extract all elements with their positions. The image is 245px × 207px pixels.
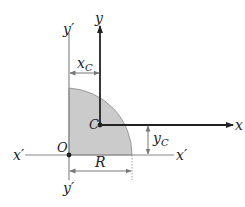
y-axis-label: y [94, 10, 104, 26]
x-prime-right-label: x′ [176, 147, 188, 163]
radius-label: R [94, 154, 106, 170]
xc-label: xC [77, 55, 93, 73]
quarter-circle-diagram: y x y′ y′ x′ x′ O C R xC yC [0, 0, 245, 207]
origin-label: O [57, 140, 68, 155]
yc-label: yC [152, 130, 169, 148]
y-prime-bottom-label: y′ [62, 180, 75, 196]
x-prime-left-label: x′ [13, 147, 25, 163]
y-prime-top-label: y′ [62, 21, 75, 37]
centroid-label: C [89, 117, 99, 132]
x-axis-label: x [235, 117, 243, 133]
